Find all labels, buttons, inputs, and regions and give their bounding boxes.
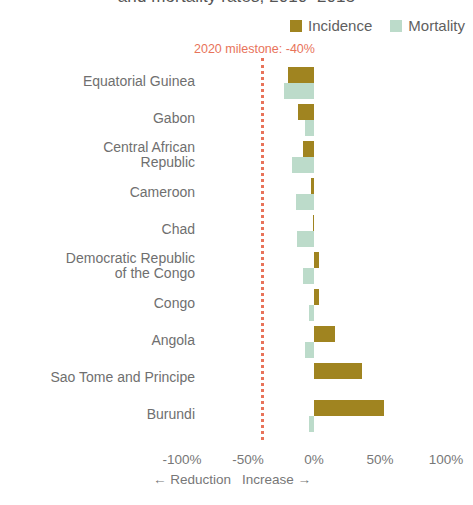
bar-mortality[interactable] xyxy=(309,416,314,432)
bar-incidence[interactable] xyxy=(313,215,314,231)
chart-row: Angola xyxy=(0,325,473,362)
bar-mortality[interactable] xyxy=(305,120,314,136)
category-label-line: Equatorial Guinea xyxy=(0,74,195,89)
bar-incidence[interactable] xyxy=(314,400,384,416)
legend-label-incidence: Incidence xyxy=(308,17,372,34)
bar-incidence[interactable] xyxy=(314,252,319,268)
x-tick-label: 0% xyxy=(304,452,324,467)
bar-mortality[interactable] xyxy=(297,231,314,247)
category-label: Chad xyxy=(0,222,195,237)
chart-row: Congo xyxy=(0,288,473,325)
bar-mortality[interactable] xyxy=(309,305,314,321)
plot-area: Equatorial GuineaGabonCentral AfricanRep… xyxy=(0,58,473,440)
legend-label-mortality: Mortality xyxy=(408,17,465,34)
chart-row: Cameroon xyxy=(0,177,473,214)
legend-item-mortality[interactable]: Mortality xyxy=(390,17,465,34)
bar-incidence[interactable] xyxy=(314,289,319,305)
category-label: Angola xyxy=(0,333,195,348)
category-label: Central AfricanRepublic xyxy=(0,140,195,170)
category-label: Burundi xyxy=(0,407,195,422)
chart-row: Gabon xyxy=(0,103,473,140)
x-tick-label: 100% xyxy=(429,452,464,467)
category-label-line: Cameroon xyxy=(0,185,195,200)
bar-mortality[interactable] xyxy=(305,342,314,358)
chart-row: Chad xyxy=(0,214,473,251)
axis-caption-increase: Increase → xyxy=(242,472,311,487)
category-label-line: Democratic Republic xyxy=(0,251,195,266)
bar-incidence[interactable] xyxy=(311,178,314,194)
category-label: Democratic Republicof the Congo xyxy=(0,251,195,281)
bar-incidence[interactable] xyxy=(288,67,314,83)
x-tick-label: -100% xyxy=(162,452,201,467)
chart-legend: Incidence Mortality xyxy=(290,17,465,34)
x-tick-label: 50% xyxy=(366,452,393,467)
category-label-line: Republic xyxy=(0,155,195,170)
category-label-line: of the Congo xyxy=(0,266,195,281)
category-label: Gabon xyxy=(0,111,195,126)
category-label-line: Congo xyxy=(0,296,195,311)
bar-incidence[interactable] xyxy=(314,363,362,379)
x-tick-label: -50% xyxy=(232,452,264,467)
legend-swatch-mortality xyxy=(390,20,402,32)
axis-caption-reduction: ← Reduction xyxy=(153,472,231,487)
chart-row: Sao Tome and Principe xyxy=(0,362,473,399)
bar-incidence[interactable] xyxy=(303,141,314,157)
category-label: Sao Tome and Principe xyxy=(0,370,195,385)
chart-row: Democratic Republicof the Congo xyxy=(0,251,473,288)
milestone-annotation-label: 2020 milestone: -40% xyxy=(194,42,315,56)
legend-item-incidence[interactable]: Incidence xyxy=(290,17,372,34)
bar-incidence[interactable] xyxy=(314,326,335,342)
category-label-line: Angola xyxy=(0,333,195,348)
legend-swatch-incidence xyxy=(290,20,302,32)
category-label: Equatorial Guinea xyxy=(0,74,195,89)
category-label: Congo xyxy=(0,296,195,311)
chart-row: Burundi xyxy=(0,399,473,436)
category-label-line: Sao Tome and Principe xyxy=(0,370,195,385)
category-label-line: Chad xyxy=(0,222,195,237)
x-axis: ← Reduction Increase → -100%-50%0%50%100… xyxy=(0,448,473,505)
category-label-line: Burundi xyxy=(0,407,195,422)
chart-row: Central AfricanRepublic xyxy=(0,140,473,177)
category-label-line: Central African xyxy=(0,140,195,155)
bar-mortality[interactable] xyxy=(284,83,314,99)
chart-row: Equatorial Guinea xyxy=(0,66,473,103)
bar-mortality[interactable] xyxy=(303,268,314,284)
category-label-line: Gabon xyxy=(0,111,195,126)
category-label: Cameroon xyxy=(0,185,195,200)
bar-mortality[interactable] xyxy=(296,194,314,210)
bar-incidence[interactable] xyxy=(298,104,314,120)
page-title: and mortality rates, 2010–2015 xyxy=(0,0,473,7)
bar-mortality[interactable] xyxy=(292,157,314,173)
